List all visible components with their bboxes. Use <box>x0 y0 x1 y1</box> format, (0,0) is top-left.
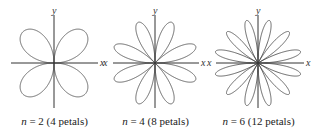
petal-count: (8 petals) <box>148 115 189 127</box>
panel-n4: x x y n = 4 (8 petals) <box>103 0 208 135</box>
y-axis-label: y <box>51 5 57 16</box>
y-axis-label: y <box>255 5 261 16</box>
petal-count: (4 petals) <box>47 115 88 127</box>
x-axis-label: x <box>305 57 311 68</box>
n-value: = 2 <box>27 115 47 127</box>
n-value: = 4 <box>128 115 148 127</box>
caption-n6: n = 6 (12 petals) <box>206 115 311 127</box>
caption-n2: n = 2 (4 petals) <box>2 115 107 127</box>
panel-n2: x y n = 2 (4 petals) <box>2 0 107 135</box>
rose-plot-12-petals: x x y <box>206 0 313 115</box>
rose-plot-4-petals: x y <box>2 0 107 115</box>
x-axis-left-label: x <box>206 57 212 68</box>
x-axis-left-label: x <box>103 57 108 68</box>
petal-count: (12 petals) <box>248 115 295 127</box>
n-value: = 6 <box>228 115 248 127</box>
panel-n6: x x y n = 6 (12 petals) <box>206 0 311 135</box>
rose-plot-8-petals: x x y <box>103 0 208 115</box>
y-axis-label: y <box>152 5 158 16</box>
caption-n4: n = 4 (8 petals) <box>103 115 208 127</box>
